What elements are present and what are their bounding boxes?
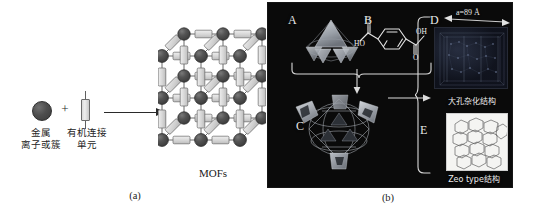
organic-linker-legend-icon — [81, 95, 91, 125]
outcome-brace-icon — [415, 15, 433, 175]
svg-text:HO: HO — [354, 39, 365, 48]
sublabel-b: B — [364, 13, 372, 28]
panel-a: + 金属 离子或簇 有机连接 单元 — [0, 0, 266, 218]
figure-root: + 金属 离子或簇 有机连接 单元 — [0, 0, 533, 218]
mofs-product-label: MOFs — [178, 167, 248, 179]
panel-a-caption: (a) — [105, 190, 165, 201]
arrow-shaft — [104, 112, 160, 113]
lattice-dimension-text: a=89 Å — [456, 8, 480, 17]
sublabel-d: D — [430, 13, 439, 28]
metal-node-legend-icon — [32, 101, 52, 121]
reaction-arrow-icon — [104, 108, 166, 118]
panel-b: O OH HO O — [267, 2, 513, 188]
sublabel-c: C — [296, 119, 304, 134]
organic-linker-label-line1: 有机连接 — [58, 127, 116, 139]
panel-d-caption: 大孔杂化结构 — [434, 95, 510, 106]
plus-sign: + — [57, 100, 73, 118]
lattice-dimension-annotation: a=89 Å — [444, 9, 510, 25]
macroporous-structure-image — [434, 27, 508, 89]
organic-linker-label-line2: 单元 — [58, 139, 116, 151]
mof-lattice-diagram — [158, 22, 266, 167]
organic-linker-label: 有机连接 单元 — [58, 127, 116, 151]
metal-cluster-a-diagram — [300, 17, 362, 65]
linker-body — [81, 99, 90, 121]
panel-b-caption: (b) — [358, 192, 418, 203]
supertetrahedron-cluster-c-diagram — [290, 89, 388, 171]
zeotype-structure-image — [446, 113, 508, 171]
panel-e-caption: Zeo type结构 — [436, 173, 512, 184]
sublabel-a: A — [288, 13, 297, 28]
sublabel-e: E — [420, 123, 427, 138]
